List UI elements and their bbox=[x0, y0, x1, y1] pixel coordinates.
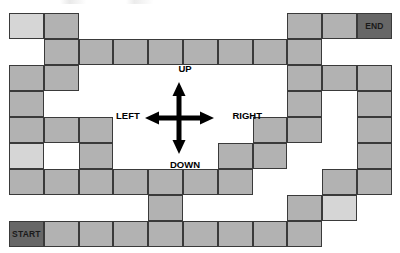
maze-tile bbox=[322, 169, 357, 195]
maze-tile bbox=[287, 195, 322, 221]
maze-tile bbox=[218, 169, 253, 195]
maze-tile bbox=[357, 117, 392, 143]
maze-tile bbox=[253, 221, 288, 247]
maze-tile bbox=[44, 169, 79, 195]
maze-tile bbox=[253, 39, 288, 65]
maze-tile bbox=[287, 65, 322, 91]
maze-tile bbox=[357, 169, 392, 195]
maze-tile bbox=[44, 117, 79, 143]
maze-diagram: ENDSTART UP DOWN LEFT RIGHT bbox=[0, 0, 400, 253]
maze-tile bbox=[287, 221, 322, 247]
maze-tile bbox=[322, 65, 357, 91]
maze-tile bbox=[79, 143, 114, 169]
maze-tile bbox=[218, 221, 253, 247]
maze-tile bbox=[357, 91, 392, 117]
maze-tile bbox=[79, 39, 114, 65]
maze-tile bbox=[44, 39, 79, 65]
maze-tile bbox=[79, 169, 114, 195]
maze-tile-label: END bbox=[365, 22, 384, 31]
maze-tile bbox=[322, 195, 357, 221]
maze-tile-label: START bbox=[12, 230, 41, 239]
maze-tile bbox=[253, 143, 288, 169]
direction-label-left: LEFT bbox=[116, 111, 140, 121]
maze-tile bbox=[9, 13, 44, 39]
maze-tile bbox=[287, 117, 322, 143]
maze-tile bbox=[9, 143, 44, 169]
maze-tile bbox=[9, 65, 44, 91]
maze-tile bbox=[148, 195, 183, 221]
maze-tile bbox=[287, 39, 322, 65]
maze-start-tile: START bbox=[9, 221, 44, 247]
maze-tile bbox=[183, 169, 218, 195]
direction-label-up: UP bbox=[178, 64, 191, 74]
direction-compass: UP DOWN LEFT RIGHT bbox=[120, 62, 250, 170]
maze-tile bbox=[287, 13, 322, 39]
maze-tile bbox=[357, 143, 392, 169]
direction-label-down: DOWN bbox=[170, 160, 200, 170]
maze-tile bbox=[183, 221, 218, 247]
maze-tile bbox=[357, 65, 392, 91]
maze-tile bbox=[148, 221, 183, 247]
capture-artifact bbox=[60, 0, 180, 4]
maze-tile bbox=[148, 169, 183, 195]
maze-tile bbox=[44, 13, 79, 39]
maze-tile bbox=[9, 169, 44, 195]
direction-label-right: RIGHT bbox=[232, 111, 262, 121]
maze-tile bbox=[44, 65, 79, 91]
maze-tile bbox=[9, 91, 44, 117]
maze-tile bbox=[287, 91, 322, 117]
maze-tile bbox=[113, 221, 148, 247]
maze-tile bbox=[79, 117, 114, 143]
maze-tile bbox=[113, 169, 148, 195]
maze-tile bbox=[79, 221, 114, 247]
maze-tile bbox=[44, 221, 79, 247]
maze-tile bbox=[9, 117, 44, 143]
maze-tile bbox=[322, 13, 357, 39]
maze-end-tile: END bbox=[357, 13, 392, 39]
